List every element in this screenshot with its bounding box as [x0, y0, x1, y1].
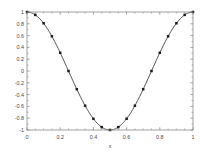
x-tick-label: 1	[192, 134, 195, 140]
data-point-marker	[51, 35, 54, 38]
y-tick-label: -0.4	[15, 92, 24, 98]
data-point-marker	[159, 52, 162, 55]
data-point-marker	[183, 14, 186, 16]
y-tick-label: -1	[19, 127, 24, 133]
data-point-marker	[117, 126, 120, 129]
data-point-marker	[142, 88, 145, 91]
chart-plot: 00.20.40.60.81-1-0.8-0.6-0.4-0.200.20.40…	[0, 0, 204, 158]
data-point-marker	[34, 14, 37, 16]
data-point-marker	[42, 22, 45, 25]
y-tick-label: -0.6	[15, 103, 24, 109]
y-tick-label: 0.2	[17, 56, 25, 62]
y-tick-label: -0.2	[15, 80, 24, 86]
x-tick-label: 0	[26, 134, 29, 140]
y-tick-label: 0.6	[17, 33, 25, 39]
y-tick-label: 1	[21, 9, 24, 15]
data-point-marker	[92, 117, 95, 120]
x-tick-label: 0.2	[56, 134, 64, 140]
data-point-marker	[167, 35, 170, 38]
y-tick-label: -0.8	[15, 115, 24, 121]
data-point-marker	[67, 70, 70, 73]
x-tick-label: 0.8	[156, 134, 164, 140]
data-point-marker	[59, 52, 62, 55]
data-point-marker	[175, 22, 178, 25]
data-point-marker	[76, 88, 79, 91]
x-tick-label: 0.4	[90, 134, 98, 140]
y-tick-label: 0	[21, 68, 24, 74]
y-tick-label: 0.8	[17, 21, 25, 27]
x-axis-title: x	[109, 143, 112, 149]
plot-background	[27, 12, 193, 130]
data-point-marker	[150, 70, 153, 73]
y-tick-label: 0.4	[17, 44, 25, 50]
data-point-marker	[84, 104, 87, 107]
x-tick-label: 0.6	[123, 134, 131, 140]
data-point-marker	[100, 126, 103, 129]
figure-canvas: 00.20.40.60.81-1-0.8-0.6-0.4-0.200.20.40…	[0, 0, 204, 158]
data-point-marker	[125, 117, 128, 120]
data-point-marker	[134, 104, 137, 107]
